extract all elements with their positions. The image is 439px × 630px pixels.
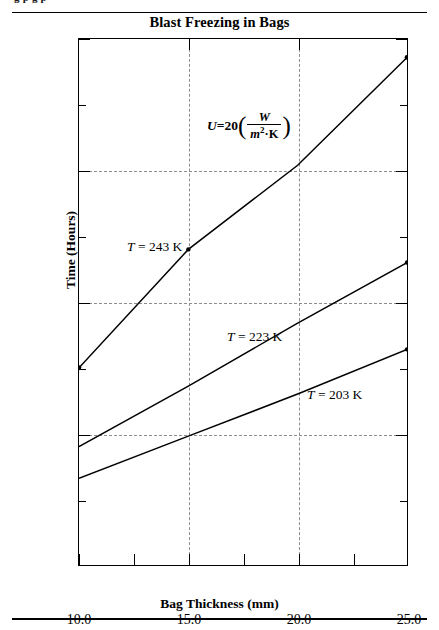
series-label-unit: K bbox=[269, 329, 282, 344]
equation-denominator-base: m bbox=[250, 128, 260, 142]
equation-numerator: W bbox=[247, 110, 281, 125]
y-axis-title: Time (Hours) bbox=[63, 211, 79, 289]
series-label-unit: K bbox=[349, 387, 362, 402]
series-label-223k: T = 223 K bbox=[227, 329, 282, 345]
plot-area: Time (Hours) U=20(Wm2·K) 0.00.51.01.52.0… bbox=[78, 38, 408, 566]
series-label-symbol: T bbox=[227, 329, 235, 344]
series-line-203k bbox=[79, 349, 407, 478]
equation-fraction: Wm2·K bbox=[247, 110, 281, 143]
x-tick-label: 15.0 bbox=[159, 613, 219, 627]
series-line-243k bbox=[79, 57, 407, 367]
series-label-value: 223 bbox=[249, 329, 269, 344]
x-tick-label: 10.0 bbox=[49, 613, 109, 627]
equation-left-paren: ( bbox=[238, 112, 246, 139]
equation-denominator-unit: K bbox=[269, 128, 279, 142]
equation-denominator: m2·K bbox=[247, 125, 281, 142]
series-label-symbol: T bbox=[307, 387, 315, 402]
series-label-equals: = bbox=[135, 239, 149, 254]
series-label-value: 243 bbox=[149, 239, 169, 254]
series-label-203k: T = 203 K bbox=[307, 387, 362, 403]
equation-annotation: U=20(Wm2·K) bbox=[207, 111, 291, 144]
series-data-marker bbox=[186, 247, 190, 251]
chart-title: Blast Freezing in Bags bbox=[0, 14, 439, 31]
equation-right-paren: ) bbox=[282, 112, 290, 139]
series-line-223k bbox=[79, 263, 407, 447]
series-label-equals: = bbox=[315, 387, 329, 402]
x-tick-label: 20.0 bbox=[269, 613, 329, 627]
series-label-symbol: T bbox=[127, 239, 135, 254]
equation-value: 20 bbox=[224, 118, 238, 133]
series-label-unit: K bbox=[169, 239, 182, 254]
series-label-value: 203 bbox=[329, 387, 349, 402]
top-horizontal-rule bbox=[12, 12, 427, 13]
bottom-horizontal-rule bbox=[12, 618, 427, 620]
x-axis-title: Bag Thickness (mm) bbox=[0, 596, 439, 612]
x-tick-label: 25.0 bbox=[379, 613, 439, 627]
cropped-header-text: g p g p bbox=[14, 0, 424, 3]
equation-symbol-u: U bbox=[207, 118, 217, 133]
series-label-243k: T = 243 K bbox=[127, 239, 182, 255]
series-label-equals: = bbox=[235, 329, 249, 344]
